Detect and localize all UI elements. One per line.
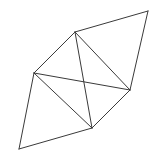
- mesh-edge-e5: [34, 73, 130, 90]
- mesh-edge-e1: [75, 11, 148, 32]
- mesh-edge-e4: [34, 32, 75, 73]
- diagram-canvas: [0, 0, 162, 166]
- mesh-svg: [0, 0, 162, 166]
- mesh-edge-e9: [19, 73, 34, 149]
- mesh-edge-e8: [92, 90, 130, 128]
- mesh-edge-e2: [130, 11, 148, 90]
- mesh-edge-e6: [75, 32, 92, 128]
- mesh-edge-e10: [19, 128, 92, 149]
- edge-layer: [19, 11, 148, 149]
